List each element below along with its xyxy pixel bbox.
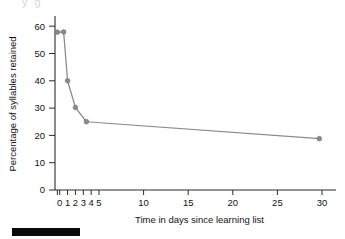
data-point — [317, 136, 322, 141]
y-tick-label: 0 — [40, 184, 45, 195]
x-tick-label: 0 — [57, 197, 62, 208]
x-tick-label: 25 — [272, 197, 283, 208]
forgetting-curve-chart: y g 01020304050600123451015202530Time in… — [0, 0, 345, 239]
x-tick-label: 4 — [88, 197, 93, 208]
y-axis-title: Percentage of syllables retained — [7, 36, 18, 171]
data-series-line — [57, 32, 319, 139]
y-tick-label: 50 — [34, 48, 45, 59]
x-tick-label: 15 — [183, 197, 194, 208]
y-tick-label: 40 — [34, 75, 45, 86]
y-tick-label: 60 — [34, 21, 45, 32]
x-axis-title: Time in days since learning list — [135, 214, 264, 225]
y-tick-label: 10 — [34, 157, 45, 168]
black-rule — [12, 228, 80, 236]
y-tick-label: 30 — [34, 102, 45, 113]
data-point — [73, 105, 78, 110]
data-point — [84, 119, 89, 124]
x-tick-label: 1 — [65, 197, 70, 208]
cropped-title-fragment: y g — [22, 0, 43, 8]
x-tick-label: 2 — [73, 197, 78, 208]
x-tick-label: 10 — [138, 197, 149, 208]
chart-canvas: 01020304050600123451015202530Time in day… — [0, 0, 345, 239]
data-point — [55, 30, 60, 35]
x-tick-label: 5 — [96, 197, 101, 208]
y-tick-label: 20 — [34, 130, 45, 141]
data-point — [65, 78, 70, 83]
x-tick-label: 30 — [317, 197, 328, 208]
x-tick-label: 20 — [228, 197, 239, 208]
x-tick-label: 3 — [81, 197, 86, 208]
data-point — [61, 30, 66, 35]
